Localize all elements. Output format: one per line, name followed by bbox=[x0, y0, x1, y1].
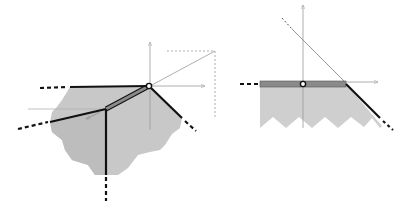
left-panel bbox=[18, 42, 215, 201]
right-diagonal-ray-dashed bbox=[282, 18, 292, 29]
diagram-svg bbox=[0, 0, 406, 210]
left-diagonal-ray bbox=[150, 51, 215, 86]
right-vertex-marker bbox=[300, 81, 305, 86]
diagram-canvas bbox=[0, 0, 406, 210]
right-diagonal-edge-dashed bbox=[383, 121, 393, 130]
left-right-edge-dashed bbox=[185, 121, 196, 131]
left-left-edge-dashed bbox=[18, 122, 48, 129]
left-top-edge bbox=[70, 86, 149, 87]
left-vertex-marker bbox=[146, 83, 151, 88]
right-panel bbox=[240, 5, 393, 130]
left-top-edge-dashed bbox=[40, 87, 68, 88]
right-diagonal-ray bbox=[292, 29, 346, 83]
right-shaded-region bbox=[260, 84, 382, 128]
